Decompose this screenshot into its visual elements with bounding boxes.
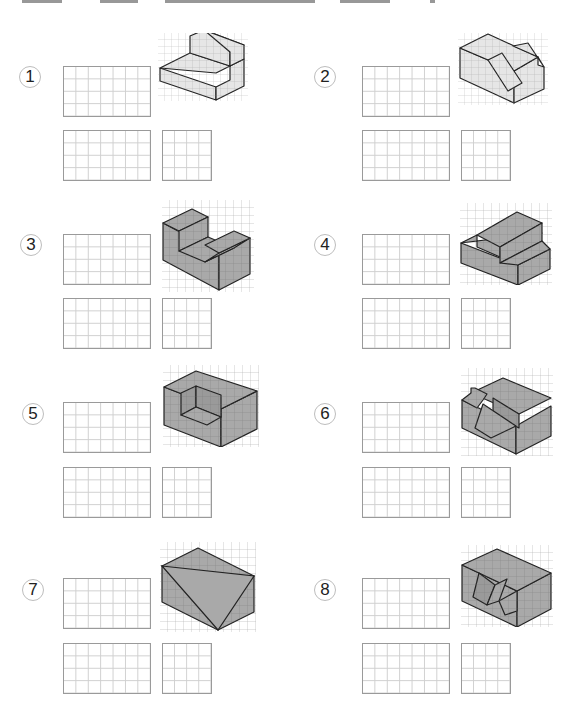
top-view-grid[interactable] (362, 643, 450, 694)
front-view-grid[interactable] (362, 402, 450, 453)
side-view-grid[interactable] (461, 130, 511, 181)
front-view-grid[interactable] (362, 234, 450, 285)
top-view-grid[interactable] (63, 467, 151, 518)
front-view-grid[interactable] (63, 578, 151, 629)
front-view-grid[interactable] (63, 402, 151, 453)
top-view-grid[interactable] (63, 130, 151, 181)
front-view-grid[interactable] (362, 578, 450, 629)
side-view-grid[interactable] (461, 467, 511, 518)
side-view-grid[interactable] (162, 298, 212, 349)
side-view-grid[interactable] (162, 643, 212, 694)
problem-number-7: 7 (22, 579, 44, 601)
side-view-grid[interactable] (461, 643, 511, 694)
front-view-grid[interactable] (63, 234, 151, 285)
problem-number-3: 3 (20, 234, 42, 256)
problem-number-8: 8 (314, 579, 336, 601)
isometric-figure-stair (158, 33, 248, 101)
problem-number-6: 6 (314, 403, 336, 425)
isometric-figure-slanted-cutout (461, 545, 553, 627)
front-view-grid[interactable] (63, 66, 151, 117)
isometric-figure-notched-block (163, 365, 259, 447)
clipped-header-text (0, 0, 572, 6)
top-view-grid[interactable] (63, 643, 151, 694)
problem-number-5: 5 (22, 403, 44, 425)
isometric-figure-step-block (460, 203, 552, 285)
top-view-grid[interactable] (362, 467, 450, 518)
isometric-figure-triangle-cut (160, 542, 256, 632)
side-view-grid[interactable] (162, 467, 212, 518)
problem-number-4: 4 (314, 234, 336, 256)
problem-number-2: 2 (314, 66, 336, 88)
top-view-grid[interactable] (362, 298, 450, 349)
front-view-grid[interactable] (362, 66, 450, 117)
top-view-grid[interactable] (362, 130, 450, 181)
isometric-figure-slanted-groove (458, 33, 548, 105)
isometric-figure-u-block (162, 200, 254, 292)
problem-number-1: 1 (19, 66, 41, 88)
side-view-grid[interactable] (461, 298, 511, 349)
isometric-figure-stepped-cutout (461, 368, 553, 456)
side-view-grid[interactable] (162, 130, 212, 181)
top-view-grid[interactable] (63, 298, 151, 349)
